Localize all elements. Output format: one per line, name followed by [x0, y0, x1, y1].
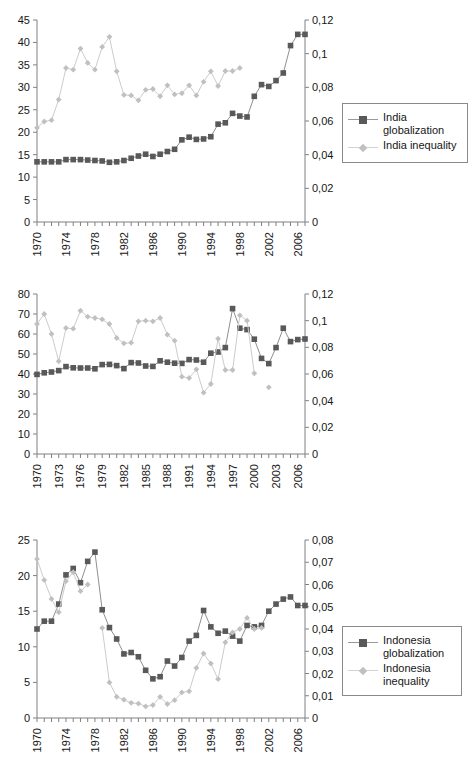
x-axis-tick-label: 1986	[147, 232, 159, 256]
data-point-india-inequality	[136, 97, 142, 103]
data-point-india-globalization	[295, 32, 301, 38]
data-point-india-globalization	[280, 70, 286, 76]
y-axis-tick-label: 40	[18, 36, 30, 48]
y-axis-tick-label: 15	[18, 605, 30, 617]
data-point-indonesia-globalization	[302, 336, 308, 342]
series-line-iran-globalization	[37, 552, 305, 679]
data-point-iran-inequality	[56, 609, 62, 615]
data-point-india-inequality	[237, 65, 243, 71]
data-point-indonesia-globalization	[34, 372, 40, 378]
data-point-iran-globalization	[85, 559, 91, 565]
data-point-iran-inequality	[114, 694, 120, 700]
data-point-india-globalization	[244, 114, 250, 120]
y2-axis-tick-label: 0,04	[312, 395, 333, 407]
y2-axis-tick-label: 0	[312, 712, 318, 724]
data-point-india-inequality	[56, 97, 62, 103]
x-axis-tick-label: 1970	[31, 464, 43, 488]
data-point-indonesia-inequality	[92, 315, 98, 321]
data-point-indonesia-inequality	[56, 358, 62, 364]
y2-axis-tick-label: 0,01	[312, 690, 333, 702]
y-axis-tick-label: 60	[18, 328, 30, 340]
data-point-india-globalization	[34, 159, 40, 165]
data-point-india-globalization	[70, 157, 76, 163]
x-axis-tick-label: 1970	[31, 728, 43, 752]
y-axis-tick-label: 0	[24, 712, 30, 724]
data-point-india-globalization	[201, 136, 207, 142]
data-point-india-globalization	[230, 111, 236, 117]
x-axis-tick-label: 1985	[140, 464, 152, 488]
x-axis-tick-label: 1978	[89, 728, 101, 752]
x-axis-tick-label: 2006	[292, 464, 304, 488]
data-point-indonesia-globalization	[295, 337, 301, 343]
data-point-iran-globalization	[201, 608, 207, 614]
chart-canvas-indonesia: 0102030405060708000,020,040,060,080,10,1…	[0, 278, 340, 528]
x-axis-tick-label: 1970	[31, 232, 43, 256]
data-point-indonesia-inequality	[70, 326, 76, 332]
y2-axis-tick-label: 0	[312, 216, 318, 228]
data-point-iran-globalization	[41, 618, 47, 624]
data-point-iran-globalization	[208, 624, 214, 630]
data-point-india-globalization	[302, 32, 308, 38]
data-point-iran-globalization	[34, 626, 40, 632]
data-point-indonesia-globalization	[63, 364, 69, 370]
y2-axis-tick-label: 0,08	[312, 81, 333, 93]
data-point-iran-inequality	[143, 704, 149, 710]
x-axis-tick-label: 2006	[292, 728, 304, 752]
data-point-iran-globalization	[273, 601, 279, 607]
data-point-india-globalization	[99, 158, 105, 164]
data-point-indonesia-inequality	[150, 318, 156, 324]
x-axis-tick-label: 1976	[74, 464, 86, 488]
data-point-indonesia-inequality	[266, 384, 272, 390]
data-point-iran-globalization	[150, 676, 156, 682]
y-axis-tick-label: 70	[18, 308, 30, 320]
data-point-indonesia-inequality	[136, 318, 142, 324]
y-axis-tick-label: 0	[24, 216, 30, 228]
y2-axis-tick-label: 0	[312, 448, 318, 460]
data-point-indonesia-globalization	[259, 356, 265, 362]
y-axis-tick-label: 10	[18, 171, 30, 183]
data-point-indonesia-globalization	[136, 360, 142, 366]
data-point-iran-globalization	[280, 596, 286, 602]
y2-axis-tick-label: 0,07	[312, 556, 333, 568]
data-point-india-inequality	[49, 117, 55, 123]
data-point-indonesia-globalization	[157, 358, 163, 364]
data-point-india-globalization	[172, 146, 178, 152]
y2-axis-tick-label: 0,03	[312, 645, 333, 657]
y-axis-tick-label: 10	[18, 641, 30, 653]
data-point-iran-inequality	[128, 700, 134, 706]
series-line-india-inequality	[37, 37, 240, 128]
data-point-india-inequality	[63, 65, 69, 71]
x-axis-tick-label: 1990	[176, 232, 188, 256]
y2-axis-tick-label: 0,02	[312, 668, 333, 680]
data-point-india-globalization	[85, 157, 91, 163]
data-point-india-globalization	[251, 94, 257, 100]
data-point-iran-globalization	[157, 674, 163, 680]
data-point-indonesia-inequality	[128, 340, 134, 346]
data-point-iran-globalization	[295, 603, 301, 609]
data-point-india-inequality	[215, 83, 221, 89]
data-point-indonesia-globalization	[107, 362, 113, 368]
x-axis-tick-label: 1991	[183, 464, 195, 488]
data-point-indonesia-inequality	[251, 370, 257, 376]
data-point-india-globalization	[56, 159, 62, 165]
x-axis-tick-label: 1998	[234, 232, 246, 256]
y-axis-tick-label: 40	[18, 368, 30, 380]
data-point-india-globalization	[266, 84, 272, 90]
legend-item-label: India inequality	[383, 139, 456, 152]
data-point-india-inequality	[193, 93, 199, 99]
data-point-india-inequality	[128, 93, 134, 99]
y2-axis-tick-label: 0,1	[312, 315, 327, 327]
data-point-india-globalization	[273, 78, 279, 84]
data-point-india-inequality	[70, 67, 76, 73]
y-axis-tick-label: 10	[18, 428, 30, 440]
x-axis-tick-label: 1990	[176, 728, 188, 752]
y2-axis-tick-label: 0,1	[312, 48, 327, 60]
data-point-iran-globalization	[179, 655, 185, 661]
x-axis-tick-label: 1982	[118, 464, 130, 488]
data-point-iran-inequality	[136, 701, 142, 707]
data-point-india-inequality	[114, 68, 120, 74]
data-point-india-globalization	[92, 158, 98, 164]
data-point-indonesia-inequality	[107, 321, 113, 327]
data-point-india-inequality	[78, 46, 84, 52]
y-axis-tick-label: 15	[18, 149, 30, 161]
